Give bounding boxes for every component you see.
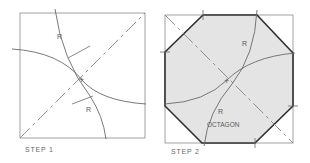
step-1-caption: STEP 1	[25, 146, 54, 153]
step-1-radius-arrow-bottom	[72, 96, 93, 104]
step-1-center-mark: +	[79, 75, 84, 85]
step-1-arc-r1	[55, 9, 106, 139]
octagon-construction-diagram: R R + R R OCTAGON +	[0, 0, 310, 163]
step-2-center-mark: +	[224, 76, 229, 86]
step-2-caption: STEP 2	[171, 148, 200, 155]
step-2-label-r-bottom: R	[218, 108, 223, 115]
step-1-label-r-bottom: R	[86, 106, 91, 113]
step-2-panel: R R OCTAGON +	[160, 10, 298, 148]
step-1-panel: R R +	[12, 9, 146, 139]
step-2-label-octagon: OCTAGON	[207, 121, 240, 128]
step-1-radius-arrow-top	[68, 46, 90, 58]
step-1-label-r-top: R	[57, 33, 62, 40]
step-2-label-r-top: R	[242, 40, 247, 47]
